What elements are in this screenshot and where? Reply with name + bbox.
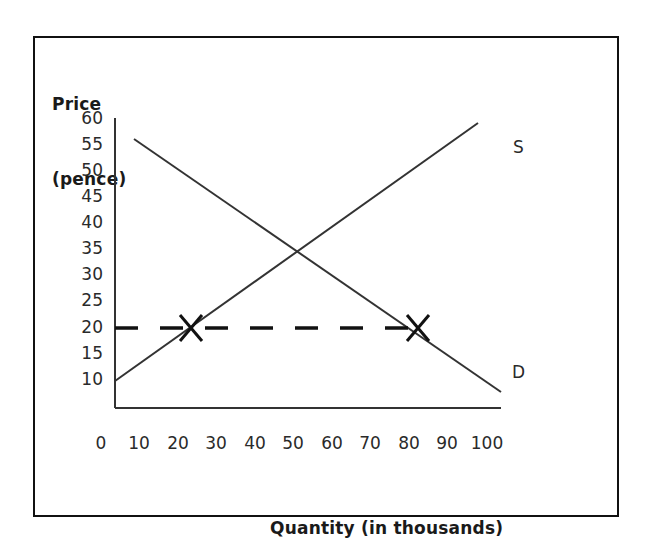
y-tick-label-50: 50 bbox=[63, 160, 103, 180]
y-tick-label-15: 15 bbox=[63, 343, 103, 363]
demand-curve-label: D bbox=[512, 362, 525, 382]
x-axis-title: Quantity (in thousands) units of chocola… bbox=[270, 466, 553, 543]
y-tick-label-30: 30 bbox=[63, 264, 103, 284]
marker-quantity-demanded bbox=[407, 315, 429, 341]
chart-figure: Price (pence) 60 55 50 45 40 35 30 25 20… bbox=[0, 0, 646, 543]
y-tick-label-45: 45 bbox=[63, 186, 103, 206]
y-tick-label-55: 55 bbox=[63, 134, 103, 154]
x-axis-title-line1: Quantity (in thousands) bbox=[270, 516, 553, 541]
y-tick-label-25: 25 bbox=[63, 290, 103, 310]
y-tick-label-35: 35 bbox=[63, 238, 103, 258]
marker-quantity-supplied bbox=[180, 315, 202, 341]
y-tick-label-10: 10 bbox=[63, 369, 103, 389]
demand-curve bbox=[134, 139, 501, 392]
y-tick-label-60: 60 bbox=[63, 108, 103, 128]
y-tick-label-20: 20 bbox=[63, 317, 103, 337]
y-tick-label-40: 40 bbox=[63, 212, 103, 232]
supply-curve-label: S bbox=[513, 137, 524, 157]
x-tick-label-100: 100 bbox=[464, 433, 510, 453]
